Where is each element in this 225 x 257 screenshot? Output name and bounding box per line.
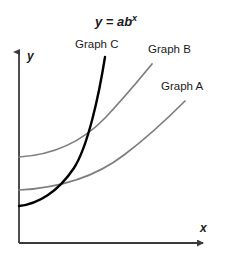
exponential-graphs-figure: y = abx Graph C Graph B Graph A y x <box>0 0 225 257</box>
y-axis-label: y <box>27 50 34 62</box>
figure-title: y = abx <box>70 14 162 28</box>
curve-label-graph-c: Graph C <box>75 39 118 51</box>
title-base: y = ab <box>95 14 132 29</box>
curve-label-graph-b: Graph B <box>148 44 191 56</box>
curve-graph-a <box>19 101 185 190</box>
curve-graph-c <box>19 57 105 206</box>
title-exponent: x <box>132 13 137 23</box>
curve-label-graph-a: Graph A <box>161 81 203 93</box>
x-axis-label: x <box>200 222 207 234</box>
